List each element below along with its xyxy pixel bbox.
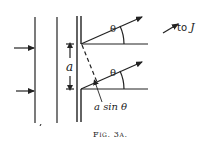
upper-angle-arc (120, 26, 124, 44)
lower-angle-label: θ (110, 68, 116, 78)
direction-target: J (190, 21, 194, 34)
lower-angle-arc (120, 71, 124, 89)
path-difference-label: a sin θ (94, 102, 127, 112)
slit-spacing-label: a (66, 61, 73, 73)
direction-label: to J (177, 22, 195, 33)
small-mark (40, 124, 41, 126)
direction-arrow (163, 24, 178, 33)
path-difference-pointer (95, 82, 102, 102)
diffraction-figure: a θ θ a sin θ to J Fig. 3a. (0, 0, 212, 147)
direction-prefix: to (177, 22, 190, 33)
perpendicular-dashed-line (82, 45, 97, 82)
figure-caption: Fig. 3a. (93, 131, 128, 139)
upper-angle-label: θ (110, 24, 116, 34)
path-difference-sin-theta: sin θ (100, 101, 127, 112)
